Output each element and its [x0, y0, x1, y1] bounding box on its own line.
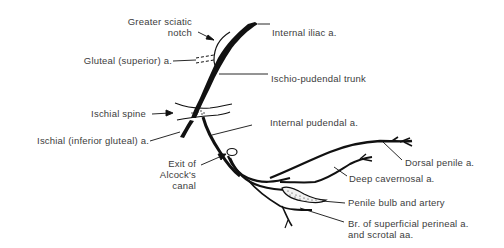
- label-deep-cavernosal: Deep cavernosal a.: [349, 173, 434, 184]
- label-ischial-inferior-gluteal: Ischial (inferior gluteal) a.: [18, 135, 149, 146]
- label-superficial-perineal-line2: and scrotal aa.: [348, 229, 469, 240]
- gluteal-superior-artery: [196, 55, 214, 63]
- label-exit-alcock-line1: Exit of: [140, 158, 196, 169]
- label-exit-alcock-line3: canal: [140, 180, 196, 191]
- label-ischial-spine: Ischial spine: [80, 108, 146, 119]
- penile-bulb: [282, 187, 326, 202]
- alcock-canal-ring: [227, 149, 237, 156]
- arterial-anatomy-diagram: Greater sciatic notch Internal iliac a. …: [0, 0, 504, 248]
- inferior-gluteal-artery: [180, 120, 194, 138]
- ischial-spine-upper: [175, 103, 232, 108]
- vessel-illustration: [0, 0, 504, 248]
- label-greater-sciatic-notch: Greater sciatic notch: [118, 16, 192, 38]
- label-ischio-pudendal-trunk: Ischio-pudendal trunk: [271, 73, 366, 84]
- label-internal-pudendal: Internal pudendal a.: [270, 117, 358, 128]
- label-superficial-perineal-line1: Br. of superficial perineal a.: [348, 218, 469, 229]
- scrotal-branch-tip: [285, 220, 288, 228]
- label-exit-alcock-line2: Alcock's: [140, 169, 196, 180]
- label-greater-sciatic-notch-line1: Greater sciatic: [118, 16, 192, 27]
- label-internal-iliac: Internal iliac a.: [272, 27, 337, 38]
- label-gluteal-superior: Gluteal (superior) a.: [70, 55, 172, 66]
- label-greater-sciatic-notch-line2: notch: [118, 27, 192, 38]
- label-exit-alcock-canal: Exit of Alcock's canal: [140, 158, 196, 191]
- label-penile-bulb: Penile bulb and artery: [348, 197, 445, 208]
- label-superficial-perineal: Br. of superficial perineal a. and scrot…: [348, 218, 469, 240]
- label-dorsal-penile: Dorsal penile a.: [405, 157, 474, 168]
